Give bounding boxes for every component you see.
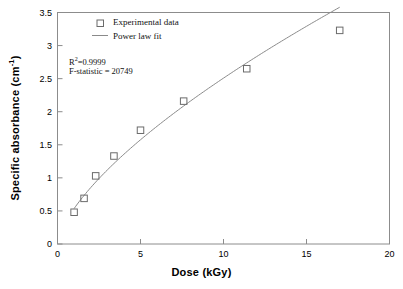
y-axis-ticks: [58, 13, 63, 245]
x-axis-title: Dose (kGy): [0, 266, 403, 278]
y-tick-label: 1.5: [20, 140, 52, 150]
x-tick-label: 10: [218, 249, 228, 259]
experimental-data-markers: [71, 27, 343, 215]
legend-item-experimental-data: Experimental data: [113, 17, 179, 27]
annotation-f-statistic: F-statistic = 20749: [69, 66, 133, 76]
legend-item-power-law-fit: Power law fit: [113, 31, 162, 41]
x-tick-label: 0: [55, 249, 60, 259]
y-tick-label: 2.5: [20, 74, 52, 84]
data-point-marker: [71, 209, 78, 216]
y-tick-label: 0.5: [20, 206, 52, 216]
x-tick-label: 5: [138, 249, 143, 259]
data-point-marker: [92, 173, 99, 180]
y-axis-title-tail: ): [9, 55, 21, 59]
y-axis-title: Specific absorbance (cm-1): [7, 55, 21, 200]
y-tick-label: 3: [20, 41, 52, 51]
x-axis-ticks: [58, 239, 390, 244]
y-tick-label: 1: [20, 173, 52, 183]
y-tick-label: 2: [20, 107, 52, 117]
data-point-marker: [180, 98, 187, 105]
data-point-marker: [111, 153, 118, 160]
data-point-marker: [243, 65, 250, 72]
chart-figure: 00.511.522.533.5 05101520 Dose (kGy) Spe…: [0, 0, 403, 289]
x-tick-label: 20: [384, 249, 394, 259]
y-tick-label: 0: [20, 239, 52, 249]
y-axis-title-main: Specific absorbance (cm: [9, 66, 21, 200]
plot-frame: [58, 13, 390, 245]
legend-marker-square: [97, 20, 104, 27]
y-axis-title-superscript: -1: [7, 59, 16, 66]
data-point-marker: [336, 27, 343, 34]
plot-canvas: [0, 0, 403, 289]
x-tick-label: 15: [301, 249, 311, 259]
data-point-marker: [137, 127, 144, 134]
y-tick-label: 3.5: [20, 8, 52, 18]
